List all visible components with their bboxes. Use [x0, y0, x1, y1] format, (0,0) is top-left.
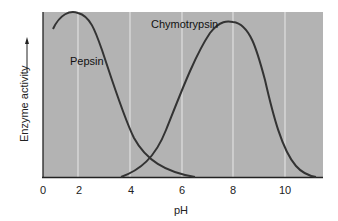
y-axis-label: Enzyme activity — [18, 65, 30, 142]
plot-area — [43, 12, 323, 177]
x-tick-0: 0 — [40, 184, 46, 196]
x-tick-8: 8 — [230, 184, 236, 196]
chart-svg: Pepsin Chymotrypsin 0 2 4 6 8 10 pH Enzy… — [0, 0, 338, 221]
x-tick-10: 10 — [279, 184, 291, 196]
x-tick-2: 2 — [76, 184, 82, 196]
x-tick-4: 4 — [128, 184, 134, 196]
chymotrypsin-label: Chymotrypsin — [151, 18, 218, 30]
arrow-up-icon — [25, 37, 29, 44]
pepsin-label: Pepsin — [70, 55, 104, 67]
chart: Pepsin Chymotrypsin 0 2 4 6 8 10 pH Enzy… — [0, 0, 338, 221]
x-axis-label: pH — [174, 204, 188, 216]
x-tick-6: 6 — [179, 184, 185, 196]
